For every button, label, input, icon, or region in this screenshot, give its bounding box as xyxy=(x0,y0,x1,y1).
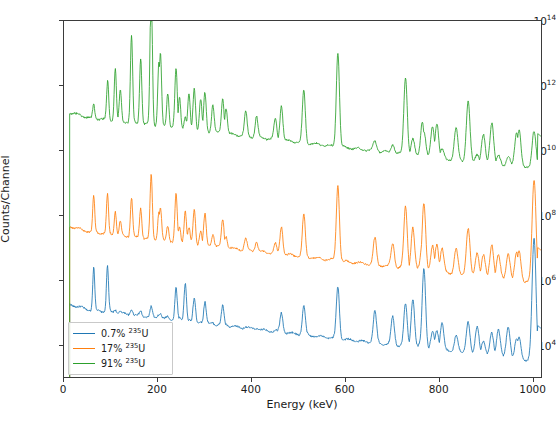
x-tick-mark xyxy=(157,378,158,382)
legend-label: 91% 235U xyxy=(101,357,145,369)
x-tick-1000: 1000 xyxy=(519,383,546,395)
x-tick-mark xyxy=(251,378,252,382)
x-tick-mark xyxy=(345,378,346,382)
legend-swatch xyxy=(73,348,95,349)
legend-label: 17% 235U xyxy=(101,342,145,354)
legend-swatch xyxy=(73,363,95,364)
x-axis-label: Energy (keV) xyxy=(267,398,338,411)
legend-swatch xyxy=(73,333,95,334)
legend-item-17pct[interactable]: 17% 235U xyxy=(73,341,167,356)
legend[interactable]: 0.7% 235U17% 235U91% 235U xyxy=(68,322,173,375)
x-tick-200: 200 xyxy=(147,383,167,395)
x-tick-400: 400 xyxy=(241,383,261,395)
y-axis-label: Counts/Channel xyxy=(0,155,12,242)
x-tick-600: 600 xyxy=(335,383,355,395)
legend-item-0-7pct[interactable]: 0.7% 235U xyxy=(73,326,167,341)
x-tick-800: 800 xyxy=(429,383,449,395)
x-tick-mark xyxy=(63,378,64,382)
spectrum-figure: Counts/Channel Energy (keV) 104106108101… xyxy=(0,0,556,421)
x-tick-mark xyxy=(439,378,440,382)
x-tick-mark xyxy=(533,378,534,382)
legend-item-91pct[interactable]: 91% 235U xyxy=(73,356,167,371)
x-tick-0: 0 xyxy=(60,383,67,395)
legend-label: 0.7% 235U xyxy=(101,327,148,339)
